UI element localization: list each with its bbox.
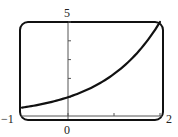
graph-window xyxy=(0,0,178,137)
x-max-label: 2 xyxy=(166,113,172,125)
x-min-label: −1 xyxy=(1,113,14,125)
exponential-curve xyxy=(22,22,160,108)
y-max-label: 5 xyxy=(64,7,70,19)
origin-x-label: 0 xyxy=(64,124,70,136)
